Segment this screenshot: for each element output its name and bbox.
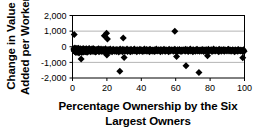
y-tick-label: -2,000 xyxy=(41,73,67,83)
x-axis-title-line-1: Percentage Ownership by the Six xyxy=(58,100,237,112)
x-tick-label: 80 xyxy=(205,83,215,93)
data-point-outlier xyxy=(195,69,202,76)
data-point-outlier xyxy=(78,55,85,62)
data-point-outlier xyxy=(183,62,190,69)
data-point-outlier xyxy=(239,54,246,61)
x-tick-label: 60 xyxy=(171,83,181,93)
data-point-outlier xyxy=(71,31,78,38)
x-tick-label: 20 xyxy=(102,83,112,93)
y-tick-label: -1,000 xyxy=(41,58,67,68)
data-points-group xyxy=(70,28,247,76)
data-point-outlier xyxy=(120,35,127,42)
scatter-chart-figure: Change in Value Added per Worker 2,0001,… xyxy=(0,0,266,137)
x-tick-labels-group: 020406080100 xyxy=(70,83,252,93)
data-point-outlier xyxy=(171,28,178,35)
y-tick-label: 2,000 xyxy=(44,11,67,21)
y-tick-label: 0 xyxy=(61,42,66,52)
x-tick-label: 100 xyxy=(237,83,252,93)
data-point-outlier xyxy=(121,54,128,61)
y-tick-label: 1,000 xyxy=(44,26,67,36)
x-tick-label: 40 xyxy=(136,83,146,93)
x-axis-title-line-2: Largest Owners xyxy=(36,114,260,129)
data-point-outlier xyxy=(116,68,123,75)
x-tick-label: 0 xyxy=(70,83,75,93)
x-axis-title: Percentage Ownership by the Six Largest … xyxy=(36,99,260,129)
y-tick-labels-group: 2,0001,0000-1,000-2,000 xyxy=(41,11,67,84)
